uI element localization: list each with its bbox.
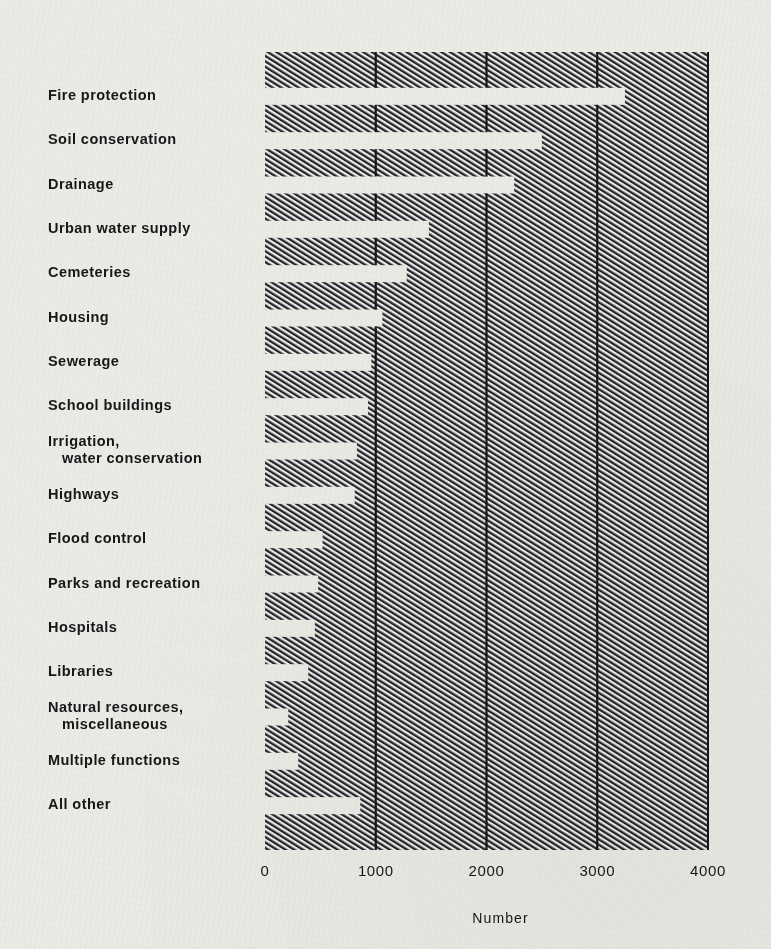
bar-chart-svg <box>0 0 771 949</box>
gridline <box>485 52 487 850</box>
chart-page: Fire protectionSoil conservationDrainage… <box>0 0 771 949</box>
x-axis-title: Number <box>0 910 771 926</box>
x-tick-label: 2000 <box>469 862 505 879</box>
x-tick-label: 3000 <box>579 862 615 879</box>
x-axis-title-text: Number <box>472 910 528 926</box>
x-tick-label: 1000 <box>358 862 394 879</box>
plot-area <box>0 0 771 949</box>
x-tick-label: 4000 <box>690 862 726 879</box>
x-tick-label: 0 <box>261 862 270 879</box>
gridline <box>596 52 598 850</box>
gridline <box>375 52 377 850</box>
gridline <box>707 52 709 850</box>
